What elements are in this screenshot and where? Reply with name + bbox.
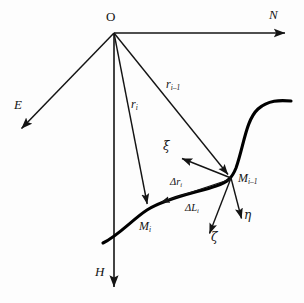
vector-r-i-label: ri: [131, 98, 138, 112]
point-m-i-minus-1-subscript: i–1: [248, 177, 258, 186]
delta-r-i-subscript: i: [180, 181, 182, 188]
vector-r-i: [114, 33, 147, 204]
point-m-i-minus-1-symbol: M: [238, 171, 248, 185]
zeta-axis-label: ζ: [211, 231, 218, 243]
point-m-i-symbol: M: [139, 219, 149, 233]
east-axis: [22, 33, 115, 129]
vector-r-i-minus-1-subscript: i–1: [171, 83, 181, 92]
delta-l-i-label: ΔLi: [185, 203, 199, 214]
vector-r-i-subscript: i: [136, 103, 138, 112]
eta-axis-label: η: [244, 209, 251, 221]
delta-l-i-symbol: ΔL: [185, 202, 197, 213]
point-m-i-minus-1-label: Mi–1: [238, 172, 258, 186]
point-m-i-label: Mi: [139, 220, 151, 234]
vector-r-i-minus-1-label: ri–1: [166, 78, 180, 92]
point-m-i-subscript: i: [149, 225, 151, 234]
xi-axis-label: ξ: [163, 140, 170, 152]
delta-r-i-symbol: Δr: [170, 176, 180, 187]
origin-label: O: [106, 10, 115, 23]
height-axis-label: H: [95, 265, 104, 278]
north-axis-label: N: [269, 8, 278, 21]
delta-r-i-label: Δri: [170, 177, 182, 188]
diagram-canvas: [0, 0, 304, 303]
east-axis-label: E: [14, 98, 22, 111]
delta-l-i-subscript: i: [197, 207, 199, 214]
